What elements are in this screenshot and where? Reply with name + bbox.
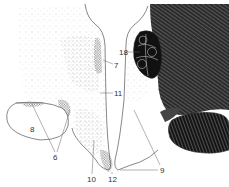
left-tissue-region xyxy=(18,4,113,172)
central-stalk xyxy=(115,6,158,170)
anatomical-diagram: 18 7 11 8 6 10 12 9 xyxy=(0,0,229,187)
label-9: 9 xyxy=(160,166,165,175)
label-7: 7 xyxy=(114,61,119,70)
label-12: 12 xyxy=(108,175,117,184)
label-10: 10 xyxy=(87,175,96,184)
label-6: 6 xyxy=(53,153,58,162)
label-18: 18 xyxy=(119,48,128,57)
label-8: 8 xyxy=(30,125,35,134)
lower-right-fiber-oval xyxy=(160,108,229,154)
label-11: 11 xyxy=(114,89,123,98)
structure-8-oval xyxy=(7,102,69,140)
